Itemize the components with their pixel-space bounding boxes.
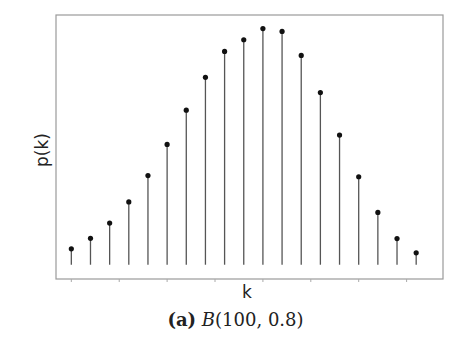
data-stems — [69, 26, 419, 265]
plot-frame — [56, 15, 443, 279]
stem-marker — [145, 173, 150, 178]
stem-marker — [241, 37, 246, 42]
y-axis-label: p(k) — [32, 133, 52, 167]
stem-marker — [356, 174, 361, 179]
stem-marker — [299, 53, 304, 58]
stem-marker — [337, 133, 342, 138]
stem-marker — [260, 26, 265, 31]
stem-marker — [222, 49, 227, 54]
caption-tag: (a) — [167, 309, 196, 330]
stem-marker — [318, 90, 323, 95]
stem-marker — [375, 210, 380, 215]
stem-marker — [394, 236, 399, 241]
x-axis-label: k — [242, 282, 252, 302]
plot-area — [56, 15, 443, 279]
stem-marker — [165, 142, 170, 147]
caption-params: (100, 0.8) — [215, 309, 303, 330]
stem-marker — [69, 246, 74, 251]
stem-marker — [279, 29, 284, 34]
stem-marker — [88, 236, 93, 241]
stem-marker — [184, 108, 189, 113]
stem-chart: k p(k) — [0, 0, 471, 359]
stem-marker — [414, 250, 419, 255]
figure-caption: (a) B(100, 0.8) — [0, 309, 471, 330]
caption-distribution: B — [202, 309, 215, 330]
stem-marker — [107, 221, 112, 226]
stem-marker — [126, 199, 131, 204]
stem-marker — [203, 75, 208, 80]
